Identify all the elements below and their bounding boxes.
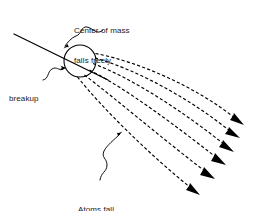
arrowhead-icon-2 [225, 127, 240, 138]
physics-diagram: Center of mass falls freely breakup Atom… [0, 0, 259, 211]
annotation-center-of-mass-line1: Center of mass [74, 26, 130, 36]
trajectory-arrowheads [186, 113, 244, 195]
annotation-breakup: breakup [9, 74, 39, 124]
squiggle-leader-left [43, 68, 63, 80]
arrowhead-icon-5 [200, 167, 215, 179]
arrowhead-icon-3 [219, 140, 234, 152]
leader-arrowhead-bottom [117, 132, 123, 137]
squiggle-leader-bottom [100, 134, 120, 180]
atom-path-6 [78, 77, 192, 188]
arrowhead-icon-1 [230, 113, 244, 125]
arrowhead-icon-4 [211, 153, 226, 165]
arrowhead-icon-6 [186, 183, 200, 195]
annotation-center-of-mass: Center of mass falls freely [74, 6, 130, 86]
atom-path-5 [85, 75, 207, 172]
leader-arrowhead-left [61, 66, 67, 71]
annotation-center-of-mass-line2: falls freely [74, 56, 130, 66]
annotation-atoms-fall-line1: Atoms fall [78, 205, 114, 211]
annotation-breakup-line1: breakup [9, 94, 39, 104]
annotation-atoms-fall: Atoms fall freely [78, 185, 114, 211]
